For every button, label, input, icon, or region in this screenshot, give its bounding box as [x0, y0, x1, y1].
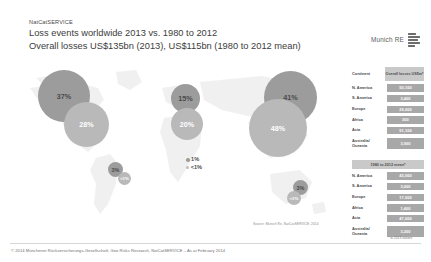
row-label: Africa [352, 118, 387, 123]
bubble-label: 3% [297, 185, 305, 191]
column-header-losses: Overall losses US$m* [385, 67, 424, 82]
bubble-australia-mean: <1% [287, 191, 301, 205]
row-label: Australia/ Oceania [352, 139, 387, 148]
row-value-chip: 51,100 [387, 127, 424, 134]
table-row: S. America 3,000 [352, 182, 424, 192]
africa-marker-mean: <1% [186, 164, 202, 172]
row-value-chip: 43,000 [387, 172, 424, 179]
bubble-dot-icon [186, 158, 190, 162]
bubble-label: 20% [180, 120, 195, 129]
row-label: S. America [352, 96, 387, 101]
bubble-europe-mean: 20% [171, 108, 203, 140]
bubble-label: 3% [112, 167, 120, 173]
row-value-chip: 1,400 [387, 204, 424, 211]
row-label: Africa [352, 206, 387, 211]
table-row: Africa 1,400 [352, 203, 424, 213]
table-band-title: 1980 to 2012 mean* [352, 160, 424, 169]
table-row: N. America 43,000 [352, 171, 424, 181]
bubble-label: <1% [289, 196, 298, 201]
page-title-line2: Overall losses US$135bn (2013), US$115bn… [29, 40, 301, 53]
page-title-line1: Loss events worldwide 2013 vs. 1980 to 2… [29, 27, 301, 40]
world-map-panel: 37% 28% 15% 20% 41% 48% 3% <1% 3% [12, 62, 342, 234]
row-value-chip: 3,900 [387, 138, 424, 149]
row-label: Asia [352, 216, 387, 221]
table-mean: 1980 to 2012 mean* N. America 43,000 S. … [352, 160, 424, 240]
row-value-chip: 3,400 [387, 95, 424, 102]
header: NatCatSERVICE Loss events worldwide 2013… [29, 18, 301, 53]
eyebrow-label: NatCatSERVICE [29, 18, 301, 27]
footer-divider [10, 243, 421, 244]
brand-lockup: Munich RE [371, 33, 421, 46]
row-value-chip: 3,000 [387, 183, 424, 190]
column-header-continent: Continent [352, 72, 385, 77]
brand-name: Munich RE [371, 36, 404, 43]
bubble-label: 48% [271, 124, 286, 133]
row-value-chip: 47,000 [387, 215, 424, 222]
bubble-dot-icon [186, 166, 189, 169]
row-label: N. America [352, 86, 387, 91]
table-2013: Continent Overall losses US$m* N. Americ… [352, 66, 424, 152]
row-label: N. America [352, 174, 387, 179]
africa-value-mean: <1% [191, 164, 202, 172]
table-footnote: * in 2013 values [388, 236, 412, 240]
table-row: Asia 51,100 [352, 126, 424, 136]
bubble-s-america-mean: <1% [118, 172, 131, 185]
bubble-asia-mean: 48% [249, 99, 307, 157]
row-value-chip: 17,000 [387, 194, 424, 201]
table-row: Asia 47,000 [352, 214, 424, 224]
row-label: Europe [352, 107, 387, 112]
table-header-row: Continent Overall losses US$m* [352, 66, 424, 82]
bubble-label: 37% [57, 92, 72, 101]
africa-value-2013: 1% [191, 156, 199, 164]
row-label: S. America [352, 184, 387, 189]
table-row: Africa 300 [352, 115, 424, 125]
row-value-chip: 50,100 [387, 84, 424, 91]
africa-marker-2013: 1% [186, 156, 202, 164]
africa-marker-group: 1% <1% [186, 156, 202, 171]
table-row: Europe 17,000 [352, 193, 424, 203]
row-value-chip: 300 [387, 116, 424, 123]
source-note: Source: Munich Re, NatCatSERVICE, 2014 [253, 222, 319, 226]
table-row: Europe 29,000 [352, 104, 424, 114]
copyright-footer: © 2014 Münchener Rückversicherungs-Gesel… [11, 248, 225, 253]
row-label: Australia/ Oceania [352, 227, 387, 236]
bubble-label: <1% [120, 176, 129, 181]
bubble-label: 15% [178, 94, 193, 103]
bubble-n-america-mean: 28% [64, 102, 109, 147]
slide-root: NatCatSERVICE Loss events worldwide 2013… [0, 0, 431, 262]
row-label: Asia [352, 128, 387, 133]
bubble-label: 28% [79, 120, 94, 129]
table-row: Australia/ Oceania 3,900 [352, 137, 424, 151]
row-value-chip: 29,000 [387, 106, 424, 113]
munich-re-logo-icon [408, 33, 421, 46]
table-row: S. America 3,400 [352, 94, 424, 104]
row-label: Europe [352, 195, 387, 200]
table-row: N. America 50,100 [352, 83, 424, 93]
